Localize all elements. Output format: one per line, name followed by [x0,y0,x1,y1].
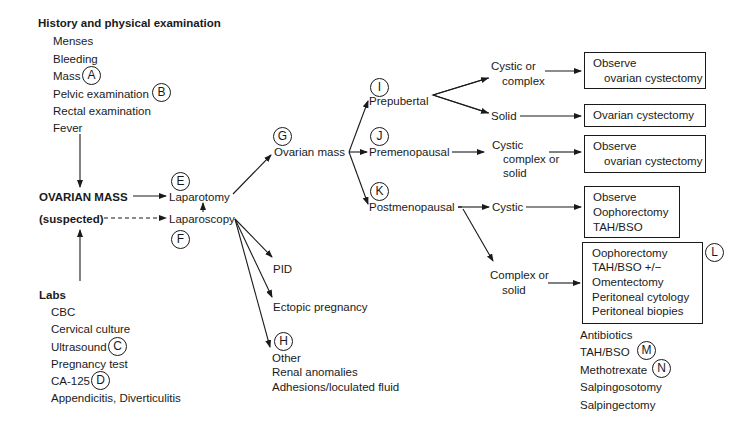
outcome-box-2: Ovarian cystectomy [584,104,706,127]
outcome-line: Observe [593,190,636,204]
post-complex-label: Complex or [490,268,549,282]
outcome-line: Peritoneal biopies [592,304,683,318]
finding-other: Adhesions/loculated fluid [272,380,399,394]
ovarian-mass-suspected: (suspected) [39,212,104,226]
outcome-box-4: Observe Oophorectomy TAH/BSO [584,186,680,238]
labs-item: CA-125 [51,374,90,388]
laparotomy-label: Laparotomy [169,190,230,204]
premeno-finding-label: solid [503,166,527,180]
labs-item: Pregnancy test [51,357,128,371]
treatment-item: TAH/BSO [580,345,630,359]
outcome-line: TAH/BSO +/− [592,260,661,274]
treatment-item: Salpingectomy [580,398,655,412]
outcome-line: Observe [593,139,636,153]
outcome-line: Oophorectomy [592,246,667,260]
marker-g: G [273,127,292,146]
outcome-line: TAH/BSO [593,220,643,234]
treatment-item: Antibiotics [580,328,632,342]
pre-solid-label: Solid [491,109,517,123]
treatment-item: Methotrexate [580,363,647,377]
outcome-line: ovarian cystectomy [604,71,702,85]
marker-m: M [637,341,656,360]
history-item: Mass [53,69,80,83]
outcome-line: Ovarian cystectomy [593,108,694,122]
marker-c: C [108,337,127,356]
outcome-line: Omentectomy [592,275,664,289]
marker-k: K [370,182,389,201]
history-item: Menses [53,34,93,48]
history-item: Rectal examination [53,104,151,118]
history-item: Fever [53,121,82,135]
marker-b: B [152,83,171,102]
marker-l: L [705,243,724,262]
history-item: Bleeding [53,52,98,66]
marker-a: A [82,66,101,85]
finding-ectopic: Ectopic pregnancy [273,300,368,314]
labs-item: Appendicitis, Diverticulitis [51,391,181,405]
treatment-item: Salpingosotomy [580,380,662,394]
marker-j: J [370,127,389,146]
history-title: History and physical examination [38,16,221,30]
premeno-finding-label: complex or [503,152,559,166]
outcome-box-3: Observe ovarian cystectomy [584,135,706,173]
marker-e: E [171,172,190,191]
finding-other: Other [272,351,301,365]
premenopausal-label: Premenopausal [369,145,450,159]
outcome-line: Peritoneal cytology [592,290,689,304]
labs-item: Ultrasound [51,340,107,354]
pre-cystic-label: Cystic or [491,59,536,73]
labs-item: CBC [51,305,75,319]
history-item: Pelvic examination [53,87,149,101]
prepubertal-label: Prepubertal [369,94,428,108]
finding-pid: PID [273,262,292,276]
outcome-line: Observe [593,56,636,70]
premeno-finding-label: Cystic [492,138,523,152]
labs-item: Cervical culture [51,322,130,336]
post-cystic-label: Cystic [492,200,523,214]
finding-other: Renal anomalies [272,365,358,379]
outcome-box-1: Observe ovarian cystectomy [584,52,706,89]
outcome-box-5: Oophorectomy TAH/BSO +/− Omentectomy Per… [582,242,703,324]
marker-n: N [652,359,671,378]
outcome-line: ovarian cystectomy [604,154,702,168]
marker-h: H [274,332,293,351]
outcome-line: Oophorectomy [593,205,668,219]
ovarian-mass-node: Ovarian mass [274,145,345,159]
ovarian-mass-title: OVARIAN MASS [39,190,128,204]
pre-cystic-label: complex [502,74,545,88]
marker-f: F [171,230,190,249]
postmenopausal-label: Postmenopausal [369,200,455,214]
marker-d: D [91,371,110,390]
labs-title: Labs [39,288,66,302]
post-complex-label: solid [502,283,526,297]
laparoscopy-label: Laparoscopy [169,212,235,226]
